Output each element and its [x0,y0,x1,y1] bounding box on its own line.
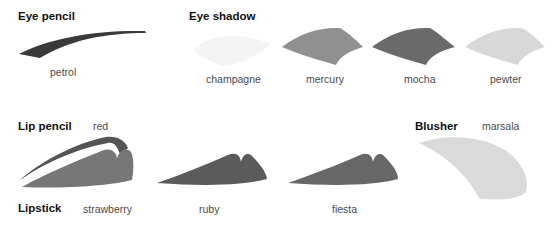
blusher-marsala-swatch [0,0,559,226]
